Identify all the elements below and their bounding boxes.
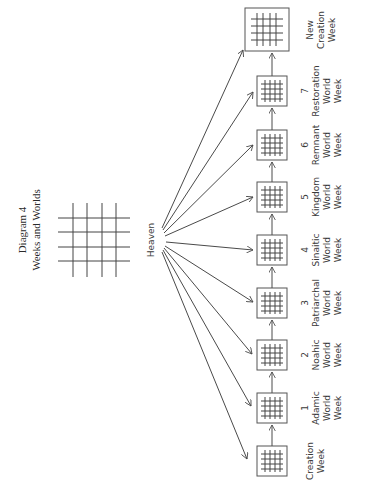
heaven-arrows <box>162 50 253 459</box>
svg-text:World: World <box>322 184 332 210</box>
title-line-1: Diagram 4 <box>16 206 28 253</box>
svg-text:World: World <box>322 342 332 368</box>
svg-text:Week: Week <box>333 132 343 157</box>
title-line-2: Weeks and Worlds <box>30 189 42 271</box>
svg-text:Creation: Creation <box>316 11 326 49</box>
svg-text:2: 2 <box>300 352 310 358</box>
svg-text:World: World <box>322 290 332 316</box>
svg-text:World: World <box>322 78 332 104</box>
label-kingdom: 5 Kingdom World Week <box>300 177 343 217</box>
svg-text:Adamic: Adamic <box>311 391 321 424</box>
label-restoration: 7 Restoration World Week <box>300 65 343 117</box>
svg-text:Noahic: Noahic <box>311 340 321 371</box>
arrow-to-creation <box>162 252 247 459</box>
svg-text:Restoration: Restoration <box>311 65 321 117</box>
label-new-creation: New Creation Week <box>305 11 337 49</box>
svg-text:World: World <box>322 237 332 263</box>
svg-text:Week: Week <box>316 448 326 473</box>
svg-text:7: 7 <box>300 88 310 94</box>
label-sinaitic: 4 Sinaitic World Week <box>300 233 343 266</box>
svg-text:3: 3 <box>300 300 310 306</box>
weeks-and-worlds-diagram: Diagram 4 Weeks and Worlds Heaven <box>0 0 366 497</box>
svg-text:Week: Week <box>333 237 343 262</box>
week-box-patriarchal <box>257 288 287 318</box>
arrow-to-patriarchal <box>165 246 253 302</box>
label-patriarchal: 3 Patriarchal World Week <box>300 279 343 327</box>
diagram-title: Diagram 4 Weeks and Worlds <box>16 189 42 271</box>
arrow-to-noahic <box>164 248 252 354</box>
svg-text:Week: Week <box>327 17 337 42</box>
svg-text:4: 4 <box>300 247 310 253</box>
svg-text:Week: Week <box>333 290 343 315</box>
week-box-sinaitic <box>257 235 287 265</box>
week-box-noahic <box>257 340 287 370</box>
week-box-adamic <box>257 393 287 423</box>
week-box-creation <box>257 446 287 476</box>
large-grid-icon <box>58 203 130 277</box>
svg-text:New: New <box>305 20 315 40</box>
arrow-to-new-creation <box>162 50 243 228</box>
svg-text:Week: Week <box>333 78 343 103</box>
arrow-to-sinaitic <box>166 242 253 250</box>
week-box-remnant <box>257 130 287 160</box>
arrow-to-remnant <box>164 145 253 233</box>
svg-text:Week: Week <box>333 395 343 420</box>
svg-text:Week: Week <box>333 342 343 367</box>
svg-text:World: World <box>322 132 332 158</box>
svg-text:1: 1 <box>300 405 310 411</box>
arrow-to-restoration <box>163 92 253 230</box>
svg-text:5: 5 <box>300 194 310 200</box>
week-box-restoration <box>257 76 287 106</box>
arrow-to-kingdom <box>165 197 253 236</box>
label-remnant: 6 Remnant World Week <box>300 124 343 165</box>
svg-text:Creation: Creation <box>305 442 315 480</box>
week-box-new-creation <box>245 8 289 51</box>
svg-text:Week: Week <box>333 184 343 209</box>
heaven-label: Heaven <box>146 223 156 257</box>
svg-text:World: World <box>322 395 332 421</box>
svg-text:Sinaitic: Sinaitic <box>311 233 321 266</box>
week-box-kingdom <box>257 182 287 212</box>
week-labels: Creation Week 1 Adamic World Week 2 Noah… <box>300 11 343 480</box>
label-creation: Creation Week <box>305 442 326 480</box>
label-noahic: 2 Noahic World Week <box>300 340 343 371</box>
svg-text:Remnant: Remnant <box>311 124 321 165</box>
label-adamic: 1 Adamic World Week <box>300 391 343 424</box>
arrow-to-adamic <box>163 250 251 406</box>
svg-text:Kingdom: Kingdom <box>311 177 321 217</box>
week-boxes <box>245 8 289 476</box>
svg-text:6: 6 <box>300 142 310 148</box>
svg-text:Patriarchal: Patriarchal <box>311 279 321 327</box>
